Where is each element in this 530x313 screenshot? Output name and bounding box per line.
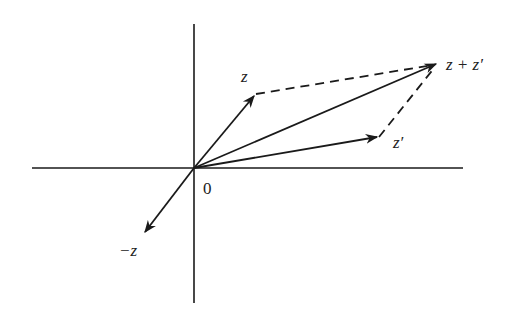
vector-z-plus-z-prime-arrow — [194, 64, 436, 168]
vector-neg-z-arrow — [145, 168, 194, 232]
dashed-z-to-sum — [256, 65, 433, 94]
label-origin: 0 — [203, 179, 212, 198]
label-neg-z: −z — [119, 241, 137, 260]
vector-z-arrow — [194, 96, 254, 168]
vector-diagram: z z′ z + z′ −z 0 — [0, 0, 530, 313]
dashed-zprime-to-sum — [379, 67, 435, 137]
label-z-plus-z-prime: z + z′ — [445, 55, 483, 74]
label-z-prime: z′ — [392, 133, 404, 152]
label-z: z — [240, 67, 248, 86]
vector-z-prime-arrow — [194, 137, 377, 168]
